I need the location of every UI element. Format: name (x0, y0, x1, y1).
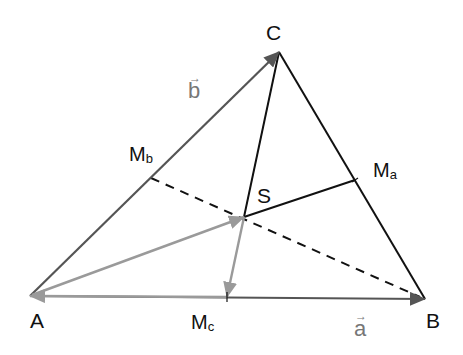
vector-arrow-icon: → (189, 72, 201, 84)
midpoint-mb-sub: b (146, 151, 153, 166)
midpoint-label-mb: Mb (129, 144, 153, 165)
midpoint-ma-main: M (373, 159, 390, 181)
vertex-label-c: C (266, 22, 281, 43)
vertex-label-b: B (426, 310, 440, 331)
midpoint-mb-main: M (129, 143, 146, 165)
vector-arrow-icon: → (355, 310, 367, 322)
vector-label-b: → b (188, 80, 200, 102)
midpoint-label-mc: Mc (191, 312, 214, 333)
centroid-label-s: S (257, 185, 271, 206)
vector-label-a: → a (354, 318, 366, 340)
midpoint-mc-sub: c (208, 319, 215, 334)
midpoint-ma-sub: a (390, 167, 397, 182)
diagram-canvas: C A B Mb Ma Mc S → b → a (0, 0, 463, 355)
midpoint-label-ma: Ma (373, 160, 397, 181)
vector-b-arrow (30, 52, 279, 296)
side-bc (279, 52, 425, 299)
vector-mc-to-a (30, 296, 227, 297)
vertex-label-a: A (30, 310, 44, 331)
vector-a-to-s (32, 217, 244, 295)
midpoint-mc-main: M (191, 311, 208, 333)
vector-s-to-mc (227, 217, 244, 297)
